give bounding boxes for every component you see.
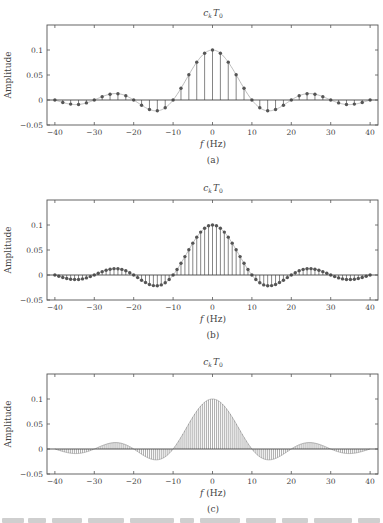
stem-marker: [136, 276, 139, 279]
y-tick-label: 0.05: [26, 71, 43, 80]
stem-marker: [227, 235, 230, 238]
x-tick-label: 10: [247, 477, 257, 486]
stem-marker: [104, 269, 107, 272]
stem-marker: [183, 255, 186, 258]
x-tick-label: −20: [126, 303, 142, 312]
stem-marker: [309, 267, 312, 270]
stem-marker: [112, 267, 115, 270]
x-tick-label: 0: [210, 303, 215, 312]
y-axis-label: Amplitude: [3, 226, 13, 274]
stem-marker: [262, 283, 265, 286]
x-tick-label: 30: [326, 128, 336, 137]
stem-marker: [266, 109, 269, 112]
stem-marker: [156, 109, 159, 112]
x-tick-label: 0: [210, 477, 215, 486]
x-tick-label: 20: [287, 303, 297, 312]
stem-marker: [278, 281, 281, 284]
stem-marker: [266, 284, 269, 287]
stem-marker: [223, 230, 226, 233]
stem-marker: [234, 248, 237, 251]
x-tick-label: −40: [47, 303, 63, 312]
stem-marker: [337, 101, 340, 104]
stem-marker: [242, 87, 245, 90]
stem-marker: [85, 276, 88, 279]
stem-marker: [211, 48, 214, 51]
y-tick-label: 0: [38, 96, 43, 105]
stem-marker: [179, 87, 182, 90]
chart-title: ckT0: [203, 183, 223, 194]
stem-chart-a: ckT0−40−30−20−10010203040−0.0500.050.1Am…: [0, 0, 383, 172]
y-tick-label: −0.05: [20, 470, 43, 479]
y-tick-label: −0.05: [20, 121, 43, 130]
stem-marker: [345, 103, 348, 106]
y-tick-label: 0.05: [26, 420, 43, 429]
y-tick-label: −0.05: [20, 296, 43, 305]
stem-marker: [140, 104, 143, 107]
stem-marker: [128, 271, 131, 274]
stem-marker: [349, 278, 352, 281]
stem-marker: [227, 60, 230, 63]
stem-marker: [211, 223, 214, 226]
stem-marker: [124, 269, 127, 272]
stem-marker: [345, 278, 348, 281]
stem-marker: [164, 281, 167, 284]
stem-marker: [69, 102, 72, 105]
chart-title: ckT0: [203, 8, 223, 19]
stem-marker: [195, 60, 198, 63]
stem-marker: [353, 102, 356, 105]
stem-marker: [65, 277, 68, 280]
x-tick-label: −30: [86, 128, 102, 137]
x-tick-label: 20: [287, 477, 297, 486]
stem-marker: [195, 235, 198, 238]
stem-marker: [294, 271, 297, 274]
stem-marker: [144, 281, 147, 284]
stem-marker: [191, 241, 194, 244]
stem-series: [53, 48, 372, 112]
x-axis-label: f(Hz): [199, 139, 226, 149]
stem-marker: [77, 278, 80, 281]
stem-marker: [305, 267, 308, 270]
chart-title: ckT0: [203, 357, 223, 368]
stem-marker: [203, 227, 206, 230]
stem-marker: [234, 73, 237, 76]
stem-marker: [61, 276, 64, 279]
stem-marker: [361, 276, 364, 279]
stem-marker: [152, 284, 155, 287]
stem-marker: [100, 95, 103, 98]
stem-marker: [325, 272, 328, 275]
stem-marker: [140, 278, 143, 281]
stem-marker: [258, 281, 261, 284]
plot-panel-a: ckT0−40−30−20−10010203040−0.0500.050.1Am…: [0, 0, 383, 172]
y-tick-label: 0: [38, 271, 43, 280]
stem-marker: [321, 270, 324, 273]
x-tick-label: 20: [287, 128, 297, 137]
y-tick-label: 0.05: [26, 246, 43, 255]
x-tick-label: 10: [247, 303, 257, 312]
x-tick-label: 0: [210, 128, 215, 137]
x-axis-label: f(Hz): [199, 488, 226, 498]
stem-marker: [282, 278, 285, 281]
stem-marker: [313, 267, 316, 270]
x-tick-label: −10: [165, 477, 181, 486]
x-tick-label: 30: [326, 303, 336, 312]
stem-marker: [254, 278, 257, 281]
stem-marker: [238, 255, 241, 258]
stem-marker: [116, 267, 119, 270]
stem-marker: [187, 73, 190, 76]
x-tick-label: 10: [247, 128, 257, 137]
x-tick-label: 40: [365, 303, 375, 312]
stem-chart-c: ckT0−40−30−20−10010203040−0.0500.050.1Am…: [0, 349, 383, 516]
stem-marker: [116, 92, 119, 95]
x-tick-label: −40: [47, 128, 63, 137]
subfigure-caption: (c): [207, 504, 219, 514]
stem-marker: [61, 101, 64, 104]
stem-marker: [148, 108, 151, 111]
subfigure-caption: (b): [207, 330, 220, 340]
stem-marker: [148, 283, 151, 286]
stem-marker: [305, 92, 308, 95]
y-tick-label: 0.1: [31, 395, 43, 404]
x-tick-label: −20: [126, 477, 142, 486]
stem-marker: [353, 278, 356, 281]
stem-marker: [274, 283, 277, 286]
clipped-figure-caption: [0, 516, 383, 523]
